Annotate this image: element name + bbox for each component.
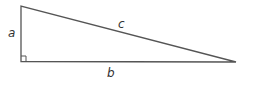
side-label-a: a <box>8 27 15 39</box>
right-angle-marker <box>21 56 26 62</box>
side-label-c-hypotenuse: c <box>118 18 125 30</box>
right-triangle-diagram: a b c <box>0 0 253 85</box>
side-label-b: b <box>107 67 115 79</box>
triangle-svg <box>0 0 253 85</box>
triangle-shape <box>21 6 236 62</box>
